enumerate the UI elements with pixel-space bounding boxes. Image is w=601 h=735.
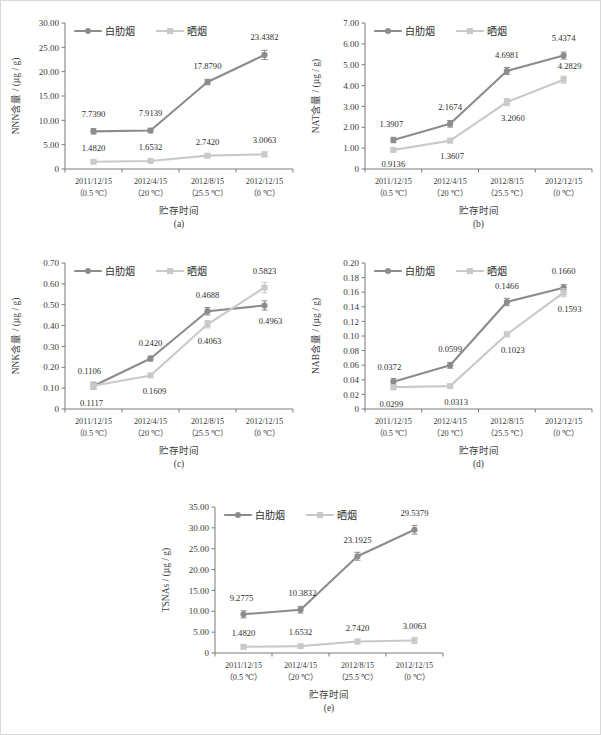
data-point	[148, 372, 154, 378]
legend-marker-square	[317, 512, 323, 518]
data-point	[261, 50, 267, 59]
x-tick-label-temp: （25.5 ℃）	[187, 189, 229, 198]
chart-b: 01.002.003.004.005.006.007.00NAT含量 / (µg…	[303, 5, 600, 243]
marker-square	[561, 77, 567, 83]
marker-square	[91, 159, 97, 165]
x-tick-label-date: 2012/12/15	[545, 177, 582, 186]
y-axis-title: NAT含量 / (µg / g)	[310, 59, 322, 134]
legend-marker-circle	[85, 28, 91, 34]
y-axis-title: NNK含量 / (µg / g)	[10, 298, 22, 375]
data-point	[205, 321, 211, 329]
series-line-2	[393, 80, 563, 150]
marker-circle	[261, 52, 267, 58]
data-label: 7.9139	[139, 108, 163, 118]
x-tick-label-temp: （0.5 ℃）	[75, 189, 112, 198]
x-tick-label-temp: （0 ℃）	[399, 673, 430, 682]
chart-panel-d: 00.020.040.060.080.100.120.140.160.180.2…	[303, 245, 600, 483]
y-axis-title: NAB含量 / (µg / g)	[310, 298, 322, 374]
data-point	[262, 282, 268, 292]
data-point	[355, 639, 361, 645]
y-tick-label: 0.40	[43, 321, 59, 331]
x-tick-label-temp: （25.5 ℃）	[486, 429, 528, 438]
marker-square	[148, 372, 154, 378]
y-tick-label: 0.20	[343, 258, 359, 268]
x-tick-label-temp: （20 ℃）	[283, 673, 318, 682]
x-tick-label-date: 2012/8/15	[490, 177, 523, 186]
data-label: 4.6981	[495, 50, 519, 60]
y-tick-label: 0.06	[343, 360, 359, 370]
marker-square	[447, 383, 453, 389]
data-label: 0.0313	[444, 397, 468, 407]
marker-circle	[354, 553, 360, 559]
x-tick-label-date: 2011/12/15	[75, 417, 112, 426]
marker-square	[412, 637, 418, 643]
data-label: 2.7420	[196, 137, 220, 147]
data-point	[298, 643, 304, 649]
y-tick-label: 0.10	[343, 331, 359, 341]
x-tick-label-temp: （25.5 ℃）	[337, 673, 379, 682]
data-label: 0.1106	[78, 366, 102, 376]
y-tick-label: 0.18	[343, 273, 359, 283]
marker-square	[262, 285, 268, 291]
chart-c: 00.100.200.300.400.500.600.70NNK含量 / (µg…	[3, 245, 301, 483]
x-tick-label-temp: （25.5 ℃）	[187, 429, 229, 438]
x-tick-label-date: 2012/12/15	[246, 417, 283, 426]
x-tick-label-date: 2012/4/15	[434, 177, 467, 186]
marker-circle	[411, 527, 417, 533]
legend-marker-circle	[235, 512, 241, 518]
data-label: 1.4820	[232, 628, 256, 638]
series-line-1	[393, 56, 563, 140]
y-tick-label: 0	[55, 404, 60, 414]
y-tick-label: 0.16	[343, 287, 359, 297]
data-label: 0.1466	[495, 281, 519, 291]
data-point	[411, 525, 417, 534]
legend-label: 晒烟	[187, 265, 207, 277]
data-label: 0.4688	[196, 290, 220, 300]
y-tick-label: 6.00	[343, 39, 359, 49]
data-label: 4.2829	[558, 61, 582, 71]
x-tick-label-date: 2011/12/15	[75, 177, 112, 186]
data-point	[147, 127, 153, 133]
data-point	[205, 153, 211, 159]
x-axis-title: 贮存时间	[459, 445, 499, 456]
legend-label: 晒烟	[337, 509, 357, 521]
data-point	[91, 382, 97, 390]
x-tick-label-date: 2012/8/15	[191, 177, 224, 186]
marker-square	[205, 153, 211, 159]
legend-marker-square	[467, 28, 473, 34]
series-line-2	[94, 288, 265, 386]
y-tick-label: 0.30	[43, 342, 59, 352]
chart-d: 00.020.040.060.080.100.120.140.160.180.2…	[303, 245, 600, 483]
x-tick-label-temp: （20 ℃）	[432, 189, 467, 198]
marker-circle	[447, 362, 453, 368]
marker-square	[504, 99, 510, 105]
data-point	[561, 289, 567, 297]
chart-panel-c: 00.100.200.300.400.500.600.70NNK含量 / (µg…	[3, 245, 301, 483]
marker-circle	[447, 121, 453, 127]
marker-circle	[204, 79, 210, 85]
data-label: 17.8790	[194, 61, 222, 71]
x-tick-label-date: 2012/8/15	[490, 417, 523, 426]
x-axis-title: 贮存时间	[159, 205, 199, 216]
y-tick-label: 0.60	[43, 279, 59, 289]
y-tick-label: 0.14	[343, 302, 359, 312]
marker-square	[91, 383, 97, 389]
marker-circle	[261, 302, 267, 308]
series-line-1	[94, 305, 265, 385]
legend-label: 晒烟	[487, 25, 507, 37]
y-tick-label: 5.00	[343, 60, 359, 70]
chart-panel-e: 05.0010.0015.0020.0025.0030.0035.00TSNAs…	[153, 485, 451, 733]
data-label: 2.7420	[346, 623, 370, 633]
data-point	[240, 611, 246, 618]
x-tick-label-temp: （0 ℃）	[249, 189, 280, 198]
marker-square	[447, 138, 453, 144]
data-label: 0.4963	[259, 316, 283, 326]
data-label: 3.0063	[403, 621, 427, 631]
marker-circle	[504, 299, 510, 305]
marker-circle	[90, 128, 96, 134]
data-label: 0.1609	[143, 386, 167, 396]
y-tick-label: 0	[55, 164, 60, 174]
data-label: 0.1660	[552, 266, 576, 276]
data-label: 9.2775	[230, 593, 254, 603]
y-tick-label: 0.12	[343, 317, 359, 327]
